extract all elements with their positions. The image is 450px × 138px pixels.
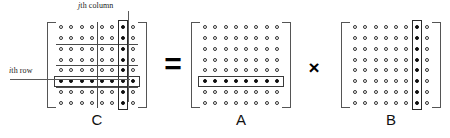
matrix-a-cell: [251, 44, 261, 55]
matrix-element: [404, 79, 408, 83]
matrix-c-cell: [97, 65, 107, 76]
matrix-c-cell: [87, 87, 97, 98]
matrix-c-cell: [97, 87, 107, 98]
matrix-b-cell: [360, 87, 370, 98]
matrix-element: [80, 36, 84, 40]
jth-column-callout-text: th column: [80, 1, 113, 10]
matrix-b-right-bracket: [432, 22, 441, 108]
matrix-element: [384, 68, 388, 72]
matrix-a-cell: [210, 22, 220, 33]
matrix-b-cell: [391, 65, 401, 76]
matrix-element: [110, 58, 114, 62]
matrix-element: [100, 25, 104, 29]
matrix-a-cell: [272, 97, 282, 108]
matrix-c-cell: [66, 44, 76, 55]
matrix-element: [275, 58, 279, 62]
matrix-element: [394, 36, 398, 40]
matrix-a-cell: [231, 22, 241, 33]
matrix-b-cell: [350, 76, 360, 87]
matrix-element: [90, 58, 94, 62]
matrix-a-cell: [231, 76, 241, 87]
times-operator: ×: [302, 58, 326, 77]
matrix-a-cell: [210, 65, 220, 76]
matrix-c-left-bracket: [47, 22, 56, 108]
matrix-element: [234, 36, 238, 40]
matrix-element: [203, 68, 207, 72]
matrix-element: [254, 25, 258, 29]
matrix-b-cell: [412, 76, 422, 87]
matrix-element: [110, 25, 114, 29]
matrix-element-highlighted: [415, 58, 419, 62]
matrix-a-cell: [262, 22, 272, 33]
matrix-b-cell: [401, 44, 411, 55]
matrix-element: [59, 36, 63, 40]
matrix-element: [224, 90, 228, 94]
matrix-element-highlighted: [415, 36, 419, 40]
matrix-element: [59, 101, 63, 105]
matrix-element-highlighted: [415, 101, 419, 105]
matrix-c-cell: [128, 44, 138, 55]
matrix-element-highlighted: [415, 79, 419, 83]
matrix-c-label: C: [77, 111, 117, 128]
matrix-element: [90, 47, 94, 51]
matrix-element: [374, 79, 378, 83]
matrix-b-cell: [350, 44, 360, 55]
matrix-element: [384, 36, 388, 40]
matrix-element: [254, 68, 258, 72]
matrix-element: [69, 90, 73, 94]
matrix-b-cell: [381, 54, 391, 65]
matrix-element: [131, 58, 135, 62]
matrix-a-cell: [200, 87, 210, 98]
matrix-a-cell: [241, 33, 251, 44]
matrix-c-cell: [97, 22, 107, 33]
matrix-element: [425, 101, 429, 105]
matrix-c-cell: [77, 87, 87, 98]
matrix-element-highlighted: [265, 79, 269, 83]
matrix-a-cell: [221, 54, 231, 65]
matrix-element: [244, 68, 248, 72]
matrix-a-cell: [200, 44, 210, 55]
matrix-element: [353, 36, 357, 40]
matrix-b-cell: [350, 22, 360, 33]
matrix-c-cell: [66, 33, 76, 44]
matrix-b-cell: [412, 54, 422, 65]
matrix-element: [404, 68, 408, 72]
matrix-a-cell: [251, 33, 261, 44]
matrix-element: [203, 47, 207, 51]
matrix-multiplication-figure: C jth column ith row = A × B: [0, 0, 450, 138]
matrix-element: [234, 90, 238, 94]
matrix-b-cell: [350, 97, 360, 108]
matrix-element: [265, 58, 269, 62]
matrix-c-cell: [128, 65, 138, 76]
matrix-b-cell: [401, 33, 411, 44]
matrix-element: [374, 68, 378, 72]
matrix-element: [90, 90, 94, 94]
matrix-b-cell: [350, 87, 360, 98]
matrix-element-highlighted: [415, 47, 419, 51]
matrix-c-cell: [97, 54, 107, 65]
matrix-c-cell: [77, 76, 87, 87]
matrix-element-highlighted: [415, 90, 419, 94]
matrix-element: [90, 25, 94, 29]
matrix-c-cell: [56, 33, 66, 44]
matrix-element: [353, 79, 357, 83]
matrix-b-cell: [391, 44, 401, 55]
matrix-c-cell: [128, 54, 138, 65]
matrix-element: [69, 25, 73, 29]
matrix-a-cell: [262, 44, 272, 55]
matrix-element-highlighted: [121, 25, 125, 29]
matrix-element-highlighted: [415, 25, 419, 29]
matrix-element: [234, 25, 238, 29]
matrix-b-cell: [360, 97, 370, 108]
matrix-c-cell: [77, 33, 87, 44]
matrix-element: [100, 47, 104, 51]
ith-row-leader-line: [10, 79, 130, 80]
matrix-a-cell: [221, 87, 231, 98]
matrix-c-cell: [107, 65, 117, 76]
matrix-a-cell: [262, 87, 272, 98]
matrix-element-highlighted: [121, 90, 125, 94]
matrix-element: [131, 36, 135, 40]
matrix-c-right-bracket: [138, 22, 147, 108]
matrix-element: [275, 90, 279, 94]
matrix-a-cell: [200, 65, 210, 76]
